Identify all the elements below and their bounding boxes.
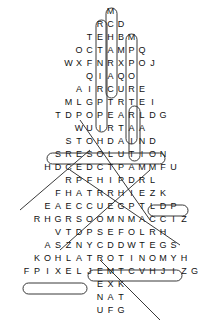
grid-letter[interactable]: S xyxy=(168,240,179,251)
grid-letter[interactable]: A xyxy=(74,84,85,95)
grid-letter[interactable]: O xyxy=(105,253,116,264)
grid-letter[interactable]: P xyxy=(116,162,127,173)
grid-letter[interactable]: D xyxy=(105,136,116,147)
grid-letter[interactable]: S xyxy=(95,227,106,238)
grid-letter[interactable]: F xyxy=(84,175,95,186)
grid-letter[interactable]: D xyxy=(74,227,85,238)
grid-letter[interactable]: D xyxy=(126,175,137,186)
grid-letter[interactable]: Y xyxy=(168,253,179,264)
grid-letter[interactable]: C xyxy=(158,214,169,225)
grid-letter[interactable]: G xyxy=(158,240,169,251)
grid-letter[interactable]: K xyxy=(32,253,43,264)
grid-letter[interactable]: C xyxy=(74,201,85,212)
grid-letter[interactable]: R xyxy=(95,84,106,95)
grid-letter[interactable]: L xyxy=(147,201,158,212)
grid-letter[interactable]: U xyxy=(116,84,127,95)
grid-letter[interactable]: T xyxy=(116,253,127,264)
grid-letter[interactable]: U xyxy=(84,123,95,134)
grid-letter[interactable]: Q xyxy=(137,45,148,56)
grid-letter[interactable]: G xyxy=(116,201,127,212)
grid-letter[interactable]: P xyxy=(126,45,137,56)
grid-letter[interactable]: F xyxy=(84,58,95,69)
grid-letter[interactable]: U xyxy=(168,162,179,173)
grid-letter[interactable]: H xyxy=(42,214,53,225)
grid-letter[interactable]: N xyxy=(137,136,148,147)
grid-letter[interactable]: A xyxy=(137,123,148,134)
grid-letter[interactable]: T xyxy=(84,253,95,264)
grid-letter[interactable]: R xyxy=(32,214,43,225)
grid-letter[interactable]: M xyxy=(126,32,137,43)
grid-letter[interactable]: P xyxy=(95,110,106,121)
grid-letter[interactable]: I xyxy=(42,266,53,277)
grid-letter[interactable]: A xyxy=(105,45,116,56)
grid-letter[interactable]: T xyxy=(105,162,116,173)
grid-letter[interactable]: O xyxy=(84,136,95,147)
grid-letter[interactable]: M xyxy=(158,253,169,264)
grid-letter[interactable]: M xyxy=(63,97,74,108)
grid-letter[interactable]: G xyxy=(53,214,64,225)
grid-letter[interactable]: R xyxy=(95,188,106,199)
grid-letter[interactable]: A xyxy=(105,292,116,303)
grid-letter[interactable]: R xyxy=(95,19,106,30)
grid-letter[interactable]: O xyxy=(74,45,85,56)
grid-letter[interactable]: H xyxy=(95,136,106,147)
grid-letter[interactable]: R xyxy=(126,84,137,95)
grid-letter[interactable]: K xyxy=(116,279,127,290)
grid-letter[interactable]: H xyxy=(158,227,169,238)
grid-letter[interactable]: C xyxy=(105,19,116,30)
grid-letter[interactable]: I xyxy=(126,188,137,199)
grid-letter[interactable]: R xyxy=(63,175,74,186)
grid-letter[interactable]: H xyxy=(42,162,53,173)
grid-letter[interactable]: G xyxy=(158,110,169,121)
grid-letter[interactable]: M xyxy=(105,6,116,17)
grid-letter[interactable]: C xyxy=(147,214,158,225)
grid-letter[interactable]: T xyxy=(116,266,127,277)
grid-letter[interactable]: D xyxy=(63,110,74,121)
grid-letter[interactable]: A xyxy=(116,110,127,121)
grid-letter[interactable]: P xyxy=(74,175,85,186)
grid-letter[interactable]: T xyxy=(84,32,95,43)
grid-letter[interactable]: O xyxy=(126,227,137,238)
grid-letter[interactable]: I xyxy=(95,123,106,134)
grid-letter[interactable]: M xyxy=(105,266,116,277)
grid-letter[interactable]: H xyxy=(95,175,106,186)
grid-letter[interactable]: J xyxy=(84,266,95,277)
grid-letter[interactable]: A xyxy=(53,201,64,212)
grid-letter[interactable]: L xyxy=(147,175,158,186)
grid-letter[interactable]: F xyxy=(158,162,169,173)
grid-letter[interactable]: G xyxy=(84,97,95,108)
grid-letter[interactable]: E xyxy=(74,149,85,160)
grid-letter[interactable]: R xyxy=(126,110,137,121)
grid-letter[interactable]: E xyxy=(105,227,116,238)
grid-letter[interactable]: I xyxy=(168,214,179,225)
grid-letter[interactable]: E xyxy=(95,279,106,290)
grid-letter[interactable]: O xyxy=(95,214,106,225)
grid-letter[interactable]: C xyxy=(95,240,106,251)
grid-letter[interactable]: E xyxy=(137,84,148,95)
grid-letter[interactable]: O xyxy=(84,214,95,225)
grid-letter[interactable]: Q xyxy=(84,71,95,82)
grid-letter[interactable]: I xyxy=(84,84,95,95)
grid-letter[interactable]: M xyxy=(126,214,137,225)
grid-letter[interactable]: Z xyxy=(147,188,158,199)
grid-letter[interactable]: P xyxy=(84,227,95,238)
grid-letter[interactable]: A xyxy=(105,71,116,82)
grid-letter[interactable]: P xyxy=(32,266,43,277)
grid-letter[interactable]: A xyxy=(74,253,85,264)
grid-letter[interactable]: O xyxy=(126,71,137,82)
grid-letter[interactable]: D xyxy=(147,110,158,121)
grid-letter[interactable]: E xyxy=(137,188,148,199)
grid-letter[interactable]: E xyxy=(42,201,53,212)
grid-letter[interactable]: A xyxy=(42,240,53,251)
grid-letter[interactable]: P xyxy=(95,97,106,108)
grid-letter[interactable]: E xyxy=(105,201,116,212)
grid-letter[interactable]: G xyxy=(189,266,200,277)
grid-letter[interactable]: I xyxy=(137,149,148,160)
grid-letter[interactable]: R xyxy=(63,214,74,225)
grid-letter[interactable]: P xyxy=(116,175,127,186)
grid-letter[interactable]: F xyxy=(116,227,127,238)
grid-letter[interactable]: N xyxy=(95,58,106,69)
grid-letter[interactable]: S xyxy=(74,214,85,225)
grid-letter[interactable]: E xyxy=(63,201,74,212)
grid-letter[interactable]: M xyxy=(147,162,158,173)
